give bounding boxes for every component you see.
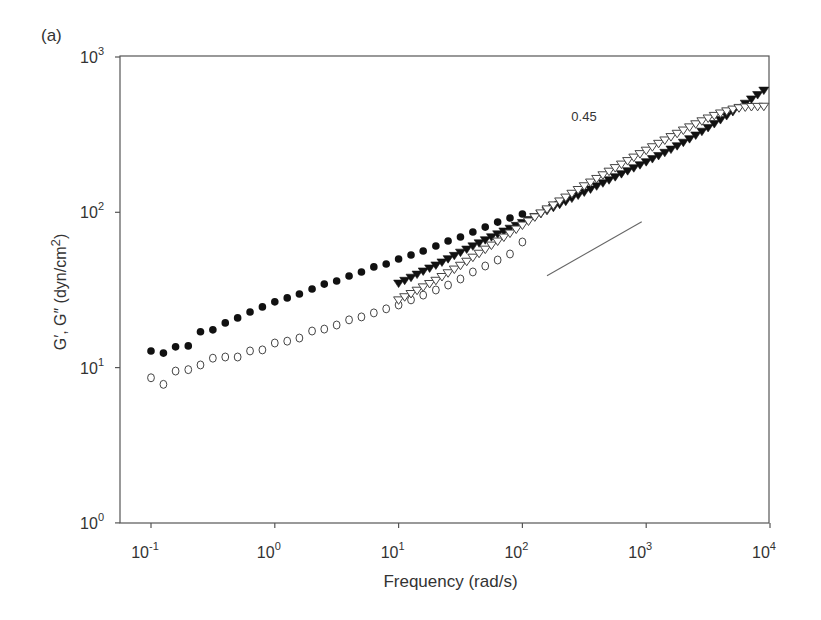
open-circle-marker <box>445 281 452 289</box>
filled-circle-marker <box>419 247 427 255</box>
x-tick-exponent: 3 <box>646 540 652 552</box>
filled-circle-marker <box>358 268 366 276</box>
open-circle-marker <box>209 354 216 362</box>
y-tick-exponent: 1 <box>98 356 104 368</box>
filled-circle-marker <box>407 251 415 259</box>
open-circle-marker <box>432 286 439 294</box>
y-tick-label: 102 <box>80 200 104 221</box>
open-circle-marker <box>222 353 229 361</box>
filled-circle-marker <box>432 242 440 250</box>
open-circle-marker <box>358 313 365 321</box>
filled-circle-marker <box>147 347 155 355</box>
filled-circle-marker <box>246 308 254 316</box>
open-circle-marker <box>457 275 464 283</box>
axis-ticks: 10-1100101102103104100101102103 <box>80 45 776 561</box>
chart-plot: 10-1100101102103104100101102103 0.45 <box>0 0 821 620</box>
open-circle-marker <box>234 353 241 361</box>
open-circle-marker <box>284 337 291 345</box>
filled-circle-marker <box>209 326 217 334</box>
filled-circle-marker <box>395 255 403 263</box>
filled-circle-marker <box>283 294 291 302</box>
filled-circle-marker <box>234 314 242 322</box>
y-tick-exponent: 3 <box>98 45 104 57</box>
open-circle-marker <box>321 325 328 333</box>
open-circle-marker <box>519 238 526 246</box>
y-axis-title: G′, G″ (dyn/cm2) <box>48 234 70 351</box>
open-circle-marker <box>482 262 489 270</box>
x-tick-exponent: 2 <box>522 540 528 552</box>
filled-circle-marker <box>457 233 465 241</box>
open-circle-marker <box>160 380 167 388</box>
open-circle-marker <box>370 309 377 317</box>
filled-circle-marker <box>259 303 267 311</box>
x-tick-exponent: 0 <box>275 540 281 552</box>
plot-frame <box>120 56 769 523</box>
filled-circle-marker <box>320 280 328 288</box>
y-axis-title-text: G′, G″ (dyn/cm2) <box>52 234 69 351</box>
y-tick-exponent: 2 <box>98 200 104 212</box>
plot-border <box>120 56 769 523</box>
filled-circle-marker <box>481 223 489 231</box>
open-circle-marker <box>259 346 266 354</box>
filled-circle-marker <box>160 349 168 357</box>
slope-line <box>547 222 642 276</box>
x-tick-label: 10-1 <box>131 540 159 561</box>
x-axis-title: Frequency (rad/s) <box>0 572 821 592</box>
y-tick-label: 103 <box>80 45 104 66</box>
open-circle-marker <box>494 256 501 264</box>
filled-circle-marker <box>494 218 502 226</box>
slope-label: 0.45 <box>571 109 596 124</box>
series-open-triangle-down <box>394 103 769 304</box>
filled-circle-marker <box>221 319 229 327</box>
x-tick-label: 103 <box>628 540 652 561</box>
filled-circle-marker <box>469 228 477 236</box>
filled-circle-marker <box>296 290 304 298</box>
data-series <box>147 87 769 388</box>
open-circle-marker <box>271 339 278 347</box>
x-tick-label: 101 <box>381 540 405 561</box>
series-filled-circle <box>147 210 526 357</box>
filled-circle-marker <box>506 214 514 222</box>
filled-circle-marker <box>172 343 180 351</box>
x-tick-label: 100 <box>257 540 281 561</box>
open-circle-marker <box>333 321 340 329</box>
filled-circle-marker <box>197 328 205 336</box>
open-circle-marker <box>507 250 514 258</box>
x-tick-label: 102 <box>504 540 528 561</box>
open-circle-marker <box>185 366 192 374</box>
open-circle-marker <box>247 347 254 355</box>
y-tick-label: 100 <box>80 511 104 532</box>
x-tick-exponent: -1 <box>149 540 159 552</box>
open-circle-marker <box>383 305 390 313</box>
open-circle-marker <box>420 291 427 299</box>
filled-circle-marker <box>382 260 390 268</box>
filled-circle-marker <box>345 272 353 280</box>
y-tick-exponent: 0 <box>98 511 104 523</box>
filled-circle-marker <box>370 263 378 271</box>
filled-circle-marker <box>333 277 341 285</box>
y-tick-label: 101 <box>80 356 104 377</box>
x-tick-label: 104 <box>752 540 776 561</box>
open-circle-marker <box>296 334 303 342</box>
filled-circle-marker <box>308 285 316 293</box>
open-circle-marker <box>346 316 353 324</box>
filled-circle-marker <box>184 342 192 350</box>
filled-circle-marker <box>444 237 452 245</box>
open-circle-marker <box>309 327 316 335</box>
open-circle-marker <box>469 268 476 276</box>
open-circle-marker <box>197 361 204 369</box>
slope-annotation: 0.45 <box>547 109 642 276</box>
open-circle-marker <box>172 367 179 375</box>
x-tick-exponent: 4 <box>770 540 776 552</box>
x-tick-exponent: 1 <box>398 540 404 552</box>
filled-circle-marker <box>271 298 279 306</box>
open-circle-marker <box>148 374 155 382</box>
